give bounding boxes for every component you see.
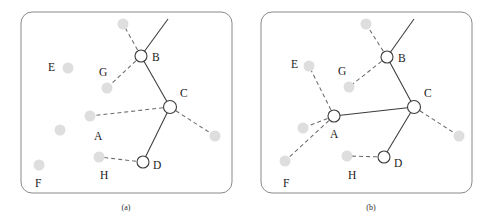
panel-b-node-a-label: A	[330, 128, 339, 140]
figure-svg: BCDEGAFH(a)BCADEGFH(b)	[0, 0, 496, 223]
panel-a-caption: (a)	[122, 203, 131, 212]
panel-b-ghost-e[interactable]	[304, 61, 315, 72]
panel-b-label-h: H	[348, 169, 356, 181]
panel-b-node-c[interactable]	[408, 101, 421, 114]
panel-b-node-d[interactable]	[378, 151, 390, 163]
figure-container: BCDEGAFH(a)BCADEGFH(b)	[0, 0, 496, 223]
panel-a-frame	[21, 12, 232, 193]
panel-a-node-b[interactable]	[135, 50, 147, 62]
panel-b-caption: (b)	[366, 203, 376, 212]
panel-a-node-d-label: D	[153, 159, 161, 171]
panel-a-ghost-right[interactable]	[210, 131, 221, 142]
panel-a-label-a: A	[94, 130, 103, 142]
panel-b-ghost-top[interactable]	[361, 19, 372, 30]
panel-b-node-a[interactable]	[328, 110, 340, 122]
panel-b-ghost-mid-left[interactable]	[298, 123, 309, 134]
panel-b-ghost-f[interactable]	[280, 156, 291, 167]
panel-a-label-h: H	[100, 169, 108, 181]
panel-a-node-b-label: B	[152, 51, 160, 63]
panel-a-ghost-h[interactable]	[94, 152, 105, 163]
panel-b-node-b-label: B	[398, 52, 406, 64]
panel-b-frame	[261, 12, 472, 193]
panel-b-node-d-label: D	[394, 157, 402, 169]
panel-a-label-e: E	[48, 61, 55, 73]
panel-a-label-f: F	[35, 177, 41, 189]
panel-b-ghost-g[interactable]	[344, 82, 355, 93]
panel-a-ghost-top[interactable]	[118, 19, 129, 30]
panel-b-node-b[interactable]	[381, 51, 393, 63]
panel-a-node-c-label: C	[180, 87, 188, 99]
panel-a-ghost-f[interactable]	[34, 160, 45, 171]
panel-a-label-g: G	[99, 66, 107, 78]
panel-a-ghost-g[interactable]	[102, 83, 113, 94]
panel-b: BCADEGFH(b)	[261, 12, 472, 212]
panel-a: BCDEGAFH(a)	[21, 12, 232, 212]
panel-a-ghost-mid-left[interactable]	[55, 125, 66, 136]
panel-a-node-d[interactable]	[137, 156, 149, 168]
panel-b-node-c-label: C	[424, 87, 432, 99]
panel-a-node-c[interactable]	[164, 101, 177, 114]
panel-b-label-e: E	[291, 58, 298, 70]
panel-b-label-f: F	[283, 177, 289, 189]
panel-b-label-g: G	[338, 65, 346, 77]
panel-b-ghost-right[interactable]	[454, 131, 465, 142]
panel-a-ghost-e[interactable]	[63, 63, 74, 74]
panel-a-ghost-a[interactable]	[85, 111, 96, 122]
panel-b-ghost-h[interactable]	[342, 151, 353, 162]
